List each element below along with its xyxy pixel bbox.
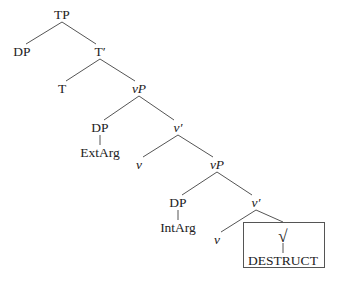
node-destruct: DESTRUCT: [248, 254, 318, 268]
tree-edge: [26, 22, 62, 44]
tree-edge: [217, 172, 252, 195]
node-t-bar: T′: [94, 45, 105, 59]
node-extarg: ExtArg: [80, 146, 120, 160]
tree-edge: [62, 22, 96, 44]
node-dp-intarg: DP: [169, 196, 186, 210]
tree-edge: [104, 96, 139, 120]
node-tp: TP: [54, 8, 70, 22]
node-v-bar-upper: v′: [174, 121, 183, 135]
node-vp-upper: vP: [132, 82, 146, 96]
node-dp-spec-tp: DP: [13, 45, 30, 59]
root-symbol-icon: √: [278, 228, 287, 245]
node-intarg: IntArg: [160, 221, 196, 235]
node-v-lower: v: [214, 233, 220, 247]
tree-edge: [100, 59, 135, 81]
tree-edge: [143, 135, 178, 157]
node-dp-extarg: DP: [91, 121, 108, 135]
node-vp-lower: vP: [210, 158, 224, 172]
tree-edge: [182, 172, 217, 195]
node-v-bar-lower: v′: [252, 196, 261, 210]
tree-edge: [178, 135, 213, 157]
tree-edge: [256, 210, 283, 222]
tree-edge: [139, 96, 174, 120]
tree-edge: [66, 59, 100, 81]
node-t: T: [58, 82, 66, 96]
node-v-upper: v: [136, 158, 142, 172]
